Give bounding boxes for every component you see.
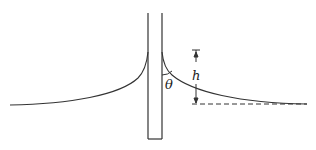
capillary-diagram: h θ — [0, 0, 316, 150]
contact-angle-label: θ — [165, 77, 173, 92]
right-meniscus-curve — [162, 52, 307, 104]
vertical-plate — [148, 13, 162, 139]
height-label: h — [192, 68, 200, 83]
left-meniscus-curve — [10, 52, 148, 105]
